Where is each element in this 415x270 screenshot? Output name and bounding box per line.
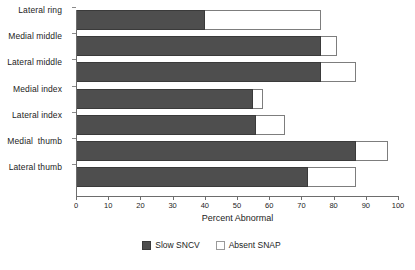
x-axis-tick-label: 0 — [64, 201, 88, 210]
bar-segment-slow-sncv — [76, 167, 308, 187]
bar-row — [76, 141, 398, 161]
x-axis-tick — [140, 196, 141, 200]
bar-segment-slow-sncv — [76, 89, 253, 109]
bar-row — [76, 89, 398, 109]
x-axis-tick-label: 20 — [128, 201, 152, 210]
y-axis-tick — [72, 7, 76, 8]
x-axis-tick — [301, 196, 302, 200]
legend-label: Slow SNCV — [155, 240, 199, 250]
x-axis-tick — [173, 196, 174, 200]
legend-item: Slow SNCV — [142, 240, 199, 250]
x-axis-tick — [366, 196, 367, 200]
legend-swatch-icon — [216, 241, 225, 250]
x-axis-tick — [269, 196, 270, 200]
legend-label: Absent SNAP — [229, 240, 281, 250]
chart-legend: Slow SNCVAbsent SNAP — [129, 236, 294, 254]
y-axis-tick — [72, 86, 76, 87]
y-axis-tick — [72, 59, 76, 60]
x-axis-tick-label: 70 — [289, 201, 313, 210]
x-axis-tick — [334, 196, 335, 200]
bar-chart: Lateral ringMedial middleLateral middleM… — [0, 0, 415, 270]
bar-row — [76, 167, 398, 187]
x-axis-tick-label: 60 — [257, 201, 281, 210]
bar-segment-slow-sncv — [76, 115, 256, 135]
y-axis-tick — [72, 138, 76, 139]
x-axis-tick-label: 80 — [322, 201, 346, 210]
bar-segment-slow-sncv — [76, 10, 205, 30]
y-axis-tick — [72, 33, 76, 34]
x-axis-tick — [237, 196, 238, 200]
category-label: Lateral ring — [0, 5, 70, 15]
legend-item: Absent SNAP — [216, 240, 281, 250]
bar-row — [76, 10, 398, 30]
x-axis-tick — [76, 196, 77, 200]
x-axis-tick-label: 10 — [96, 201, 120, 210]
x-axis-tick — [108, 196, 109, 200]
bar-segment-slow-sncv — [76, 62, 321, 82]
x-axis-tick-label: 30 — [161, 201, 185, 210]
bar-segment-slow-sncv — [76, 141, 356, 161]
category-label: Medial index — [0, 84, 70, 94]
legend-swatch-icon — [142, 241, 151, 250]
x-axis-tick — [398, 196, 399, 200]
category-label: Medial middle — [0, 31, 70, 41]
x-axis-tick — [205, 196, 206, 200]
x-axis-title: Percent Abnormal — [76, 213, 399, 223]
category-label: Lateral thumb — [0, 162, 70, 172]
category-axis-labels: Lateral ringMedial middleLateral middleM… — [0, 0, 70, 196]
x-axis-tick-label: 100 — [386, 201, 410, 210]
plot-area — [76, 10, 398, 196]
category-label: Medial thumb — [0, 136, 70, 146]
y-axis-line — [76, 10, 77, 197]
category-label: Lateral middle — [0, 57, 70, 67]
x-axis-tick-label: 90 — [354, 201, 378, 210]
bar-segment-slow-sncv — [76, 36, 321, 56]
bar-row — [76, 62, 398, 82]
bar-row — [76, 115, 398, 135]
y-axis-tick — [72, 112, 76, 113]
bar-row — [76, 36, 398, 56]
x-axis-tick-label: 40 — [193, 201, 217, 210]
x-axis-tick-label: 50 — [225, 201, 249, 210]
category-label: Lateral index — [0, 110, 70, 120]
y-axis-tick — [72, 164, 76, 165]
